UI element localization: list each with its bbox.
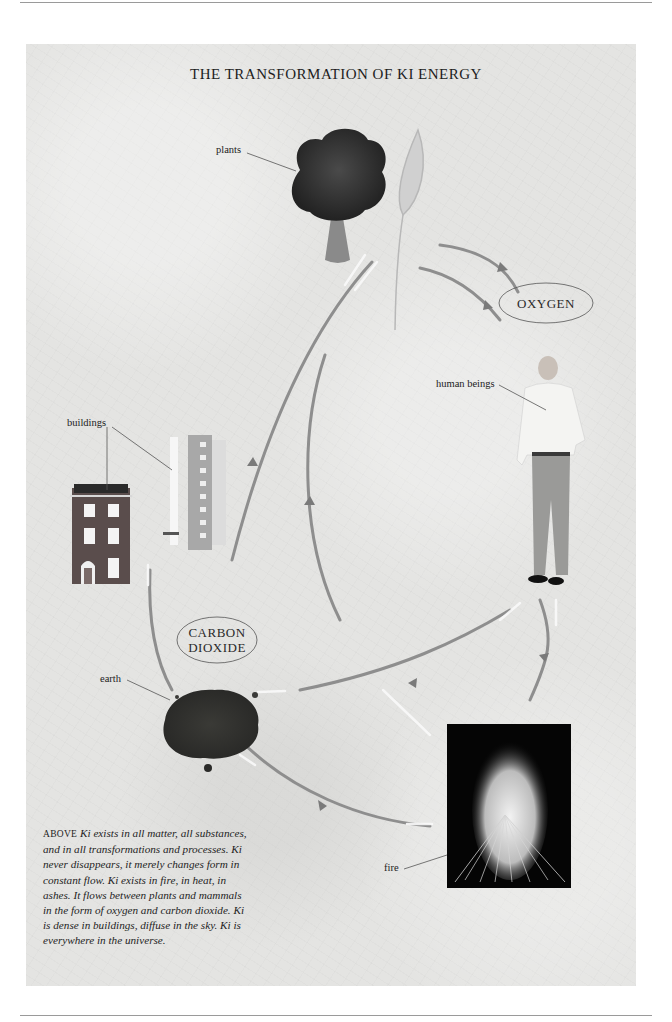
page-title: THE TRANSFORMATION OF KI ENERGY <box>0 66 672 83</box>
label-human-beings: human beings <box>436 378 495 389</box>
label-buildings: buildings <box>67 417 106 428</box>
bottom-rule <box>20 1015 652 1016</box>
label-plants: plants <box>216 144 241 155</box>
carbon-dioxide-label-line2: DIOXIDE <box>177 640 257 655</box>
caption: ABOVE Ki exists in all matter, all subst… <box>43 826 253 949</box>
tower-illustration <box>163 435 226 550</box>
oxygen-label: OXYGEN <box>517 296 575 311</box>
oxygen-node: OXYGEN <box>500 296 592 311</box>
man-illustration <box>517 356 585 585</box>
caption-text: Ki exists in all matter, all substances,… <box>43 827 247 946</box>
wheat-illustration <box>395 130 423 330</box>
caption-lead: ABOVE <box>43 829 77 839</box>
tree-illustration <box>292 129 386 263</box>
carbon-dioxide-node: CARBON DIOXIDE <box>177 625 257 655</box>
label-fire: fire <box>384 862 399 873</box>
fire-illustration <box>447 724 571 888</box>
carbon-dioxide-label-line1: CARBON <box>177 625 257 640</box>
soil-illustration <box>163 690 258 772</box>
label-earth: earth <box>100 673 121 684</box>
townhouse-illustration <box>70 484 132 584</box>
